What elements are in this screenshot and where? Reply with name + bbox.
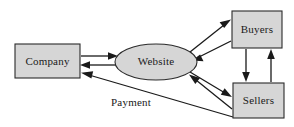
edge-buyers-to-website (192, 41, 231, 61)
edge-line-website-to-buyers (190, 25, 224, 52)
node-sellers[interactable]: Sellers (233, 83, 284, 118)
edge-label-payment: Payment (111, 96, 151, 108)
node-website[interactable]: Website (115, 44, 197, 80)
node-label-sellers: Sellers (243, 94, 274, 106)
edge-website-to-sellers (190, 72, 232, 97)
edge-line-buyers-to-website (199, 41, 231, 57)
arrow-head-sellers-to-buyers (267, 49, 275, 59)
edge-website-to-company (80, 61, 116, 69)
edge-sellers-to-buyers (267, 49, 275, 82)
edge-website-to-buyers (190, 20, 231, 53)
node-buyers[interactable]: Buyers (232, 11, 282, 48)
node-label-buyers: Buyers (241, 23, 273, 35)
edge-company-to-website (81, 52, 118, 60)
node-label-company: Company (25, 55, 69, 67)
node-label-website: Website (138, 55, 175, 67)
arrow-head-buyers-to-sellers (242, 72, 250, 82)
flow-diagram: Payment Company Website Buyers Sellers (0, 0, 294, 127)
arrow-head-sellers-to-company-payment (81, 71, 93, 78)
edge-buyers-to-sellers (242, 49, 250, 82)
diagram-canvas: Payment Company Website Buyers Sellers (0, 0, 294, 127)
arrow-head-website-to-sellers (221, 88, 232, 97)
arrow-head-website-to-company (80, 61, 90, 69)
node-company[interactable]: Company (15, 44, 80, 78)
